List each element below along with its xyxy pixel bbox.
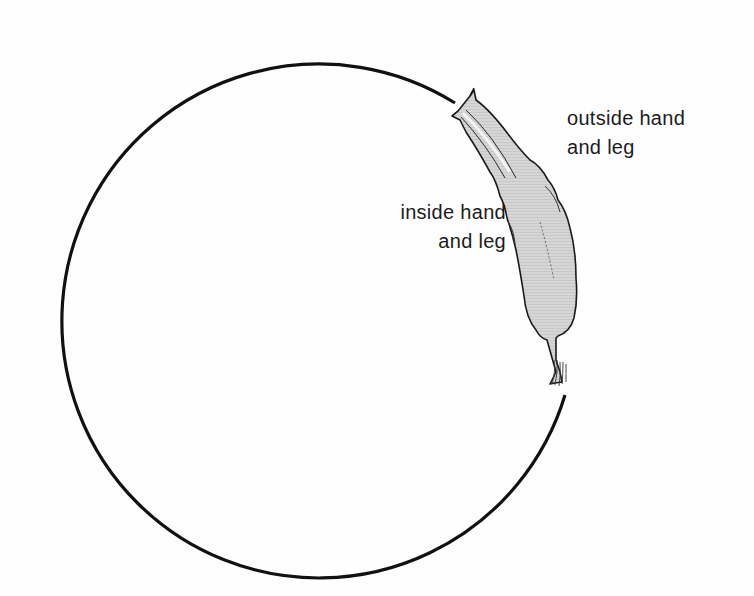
label-inside-line2: and leg xyxy=(372,227,506,256)
label-outside-line2: and leg xyxy=(567,133,685,162)
label-inside-line1: inside hand xyxy=(372,198,506,227)
label-outside-hand-and-leg: outside hand and leg xyxy=(567,104,685,162)
label-inside-hand-and-leg: inside hand and leg xyxy=(372,198,506,256)
diagram-canvas: outside hand and leg inside hand and leg xyxy=(0,0,754,596)
label-outside-line1: outside hand xyxy=(567,104,685,133)
diagram-illustration xyxy=(0,0,754,596)
